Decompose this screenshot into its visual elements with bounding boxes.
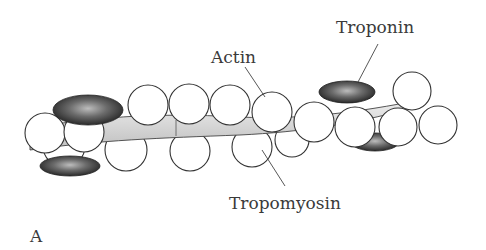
troponin-complex-upper-right — [319, 81, 375, 103]
label-troponin: Troponin — [336, 17, 414, 37]
actin-leader-line — [245, 67, 265, 97]
troponin-complex-upper-left — [53, 95, 123, 125]
label-tropomyosin: Tropomyosin — [229, 193, 341, 213]
label-actin: Actin — [210, 47, 256, 67]
troponin-leader-line — [358, 44, 378, 82]
panel-label: A — [29, 226, 43, 246]
tropomyosin-leader-line — [262, 150, 285, 186]
thin-filament-diagram: Actin Troponin Tropomyosin A — [0, 0, 486, 250]
troponin-complex-lower-left — [40, 156, 100, 176]
diagram-canvas: Actin Troponin Tropomyosin A — [0, 0, 486, 250]
